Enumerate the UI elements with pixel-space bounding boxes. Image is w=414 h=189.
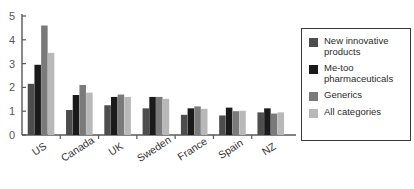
legend-item: New innovative products — [309, 36, 406, 57]
bar — [163, 99, 170, 135]
bar — [48, 53, 55, 135]
bars-group — [28, 26, 284, 135]
bar — [34, 65, 41, 135]
bar — [149, 97, 156, 135]
legend-label: Generics — [324, 90, 362, 101]
bar — [156, 97, 163, 135]
y-tick-label: 4 — [9, 34, 15, 46]
x-category-label: Sweden — [135, 133, 173, 164]
y-tick-label: 0 — [9, 129, 15, 141]
legend-label: All categories — [324, 107, 381, 118]
x-category-label: France — [175, 135, 209, 163]
bar — [181, 115, 188, 135]
bar — [239, 111, 246, 135]
bar — [188, 108, 195, 135]
bar — [28, 84, 34, 135]
legend-swatch-icon — [309, 65, 318, 74]
bar — [111, 97, 118, 135]
chart-legend: New innovative products Me-too pharmaceu… — [301, 28, 411, 141]
x-category-label: NZ — [260, 139, 279, 157]
bar — [41, 26, 48, 135]
y-axis: 012345 — [9, 10, 26, 141]
legend-label: New innovative products — [324, 36, 388, 57]
bar — [194, 106, 201, 135]
bar — [73, 95, 80, 135]
x-category-label: UK — [106, 140, 125, 158]
legend-swatch-icon — [309, 92, 318, 101]
bar-chart-svg: 012345 USCanadaUKSwedenFranceSpainNZ — [0, 0, 300, 189]
bar — [233, 111, 240, 135]
plot-area: 012345 USCanadaUKSwedenFranceSpainNZ — [0, 0, 300, 189]
y-tick-label: 2 — [9, 81, 15, 93]
bar — [104, 105, 111, 135]
x-category-label: US — [30, 140, 49, 158]
bar — [143, 108, 150, 135]
bar — [271, 114, 278, 135]
legend-item: Me-too pharmaceuticals — [309, 63, 406, 84]
bar — [201, 109, 208, 135]
bar — [66, 110, 73, 135]
category-labels: USCanadaUKSwedenFranceSpainNZ — [30, 133, 279, 164]
chart-figure: 012345 USCanadaUKSwedenFranceSpainNZ New… — [0, 0, 414, 189]
y-tick-label: 5 — [9, 10, 15, 22]
y-tick-label: 1 — [9, 105, 15, 117]
bar — [226, 108, 233, 135]
x-category-label: Spain — [216, 136, 245, 161]
legend-swatch-icon — [309, 109, 318, 118]
x-category-label: Canada — [59, 134, 97, 164]
bar — [219, 115, 226, 135]
legend-item: All categories — [309, 107, 406, 118]
bar — [86, 93, 93, 135]
y-tick-label: 3 — [9, 58, 15, 70]
legend-item: Generics — [309, 90, 406, 101]
bar — [278, 112, 285, 135]
legend-swatch-icon — [309, 38, 318, 47]
legend-label: Me-too pharmaceuticals — [324, 63, 393, 84]
bar — [118, 95, 125, 135]
bar — [124, 97, 131, 135]
bar — [264, 108, 271, 135]
bar — [79, 85, 86, 135]
bar — [257, 112, 264, 135]
